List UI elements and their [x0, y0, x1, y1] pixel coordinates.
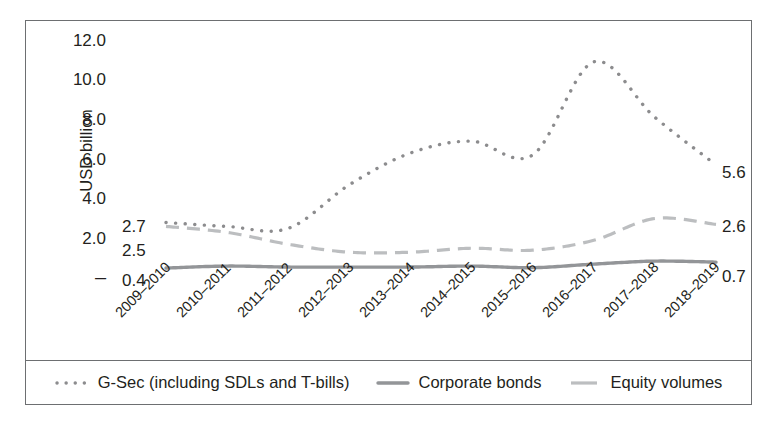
annotation-equity-start: 2.5	[122, 242, 146, 259]
legend-swatch-solid-icon	[376, 377, 410, 389]
series-canvas	[106, 21, 753, 321]
y-tick-label: 8.0	[56, 111, 106, 128]
legend-swatch-dotted-icon	[55, 377, 89, 389]
series-line-gsec	[166, 61, 716, 231]
series-line-equity	[166, 218, 716, 253]
plot-area: 2.7 2.5 0.4 5.6 2.6 0.7 2009–2010 2010–2…	[106, 21, 751, 404]
annotation-gsec-end: 5.6	[722, 164, 746, 181]
y-axis-tick-labels: 12.0 10.0 8.0 6.0 4.0 2.0 –	[44, 21, 106, 406]
legend-swatch-dashed-icon	[567, 377, 601, 389]
legend-item-gsec: G-Sec (including SDLs and T-bills)	[55, 373, 350, 392]
y-tick-label: 4.0	[56, 190, 106, 207]
y-tick-label: 12.0	[56, 32, 106, 49]
legend-item-corporate-bonds: Corporate bonds	[376, 373, 542, 392]
y-tick-label: 10.0	[56, 71, 106, 88]
annotation-equity-end: 2.6	[722, 218, 746, 235]
y-tick-label: 6.0	[56, 151, 106, 168]
legend-label: Equity volumes	[610, 373, 722, 392]
annotation-corporate-end: 0.7	[722, 268, 746, 285]
chart-legend: G-Sec (including SDLs and T-bills) Corpo…	[26, 360, 751, 404]
y-tick-label: 2.0	[56, 230, 106, 247]
y-tick-label: –	[56, 267, 106, 287]
chart-figure: USD billion 12.0 10.0 8.0 6.0 4.0 2.0 – …	[25, 20, 752, 405]
legend-label: G-Sec (including SDLs and T-bills)	[98, 373, 350, 392]
series-line-corporate-bonds	[166, 261, 716, 268]
legend-item-equity-volumes: Equity volumes	[567, 373, 722, 392]
legend-label: Corporate bonds	[419, 373, 542, 392]
annotation-gsec-start: 2.7	[122, 218, 146, 235]
